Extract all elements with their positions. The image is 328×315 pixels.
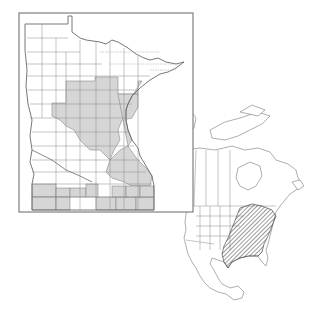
figure (0, 0, 328, 315)
